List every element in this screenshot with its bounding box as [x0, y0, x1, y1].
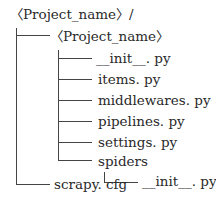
root-folder-label: 〈Project_name〉/	[10, 4, 134, 24]
file-items: items. py	[98, 69, 160, 89]
tree-row-middlewares: middlewares. py	[0, 90, 216, 112]
tree-row-scrapy-cfg: scrapy. cfg	[0, 174, 216, 196]
tree-row-project-dir: 〈Project_name〉	[0, 26, 216, 48]
project-folder-label: 〈Project_name〉	[50, 26, 169, 46]
file-settings: settings. py	[98, 132, 177, 152]
file-init: __init__. py	[96, 48, 171, 68]
tree-row-spiders: spiders	[0, 151, 216, 173]
tree-row-items: items. py	[0, 69, 216, 91]
tree-row-root: 〈Project_name〉/	[0, 4, 216, 26]
file-scrapy-cfg: scrapy. cfg	[54, 174, 127, 194]
tree-row-init: __init__. py	[0, 48, 216, 70]
file-middlewares: middlewares. py	[98, 90, 211, 110]
file-pipelines: pipelines. py	[98, 111, 185, 131]
tree-row-pipelines: pipelines. py	[0, 111, 216, 133]
folder-spiders: spiders	[98, 151, 148, 171]
